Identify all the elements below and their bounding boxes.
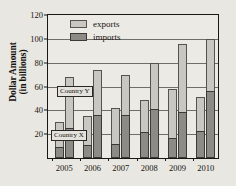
bar-segment-exports xyxy=(140,100,149,132)
bar-2009-country-x xyxy=(168,89,177,158)
y-tick-label: 120 xyxy=(30,10,43,20)
y-tick-label: 80 xyxy=(35,58,44,68)
x-tick-mark xyxy=(165,158,166,161)
bar-segment-exports xyxy=(196,97,205,130)
x-tick-label: 2007 xyxy=(112,163,129,173)
bar-2010-country-y xyxy=(206,39,215,158)
callout-country-y: Country Y xyxy=(57,86,93,97)
plot-area: 20406080100120 200520062007200820092010 … xyxy=(47,14,219,159)
legend-label-imports: imports xyxy=(93,32,121,42)
bar-segment-imports xyxy=(83,145,92,158)
legend-item-exports: exports xyxy=(70,19,121,29)
bar-segment-exports xyxy=(111,108,120,144)
bar-2008-country-x xyxy=(140,100,149,158)
bar-segment-imports xyxy=(55,147,64,158)
x-tick-mark xyxy=(80,158,81,161)
bar-2009-country-y xyxy=(178,44,187,158)
x-tick-mark xyxy=(137,158,138,161)
legend: exports imports xyxy=(70,19,121,42)
bar-segment-imports xyxy=(178,112,187,158)
x-tick-mark xyxy=(108,158,109,161)
bar-segment-imports xyxy=(140,132,149,158)
bar-2007-country-y xyxy=(121,75,130,158)
x-tick-label: 2009 xyxy=(169,163,186,173)
legend-swatch-exports-icon xyxy=(70,20,87,28)
bar-segment-imports xyxy=(206,91,215,158)
callout-country-x: Country X xyxy=(51,130,87,141)
bar-segment-imports xyxy=(93,115,102,158)
bar-2008-country-y xyxy=(150,63,159,158)
bar-segment-imports xyxy=(168,138,177,158)
bar-segment-imports xyxy=(196,131,205,158)
x-tick-label: 2006 xyxy=(84,163,101,173)
x-tick-label: 2010 xyxy=(197,163,214,173)
bar-segment-exports xyxy=(65,77,74,128)
bar-2010-country-x xyxy=(196,97,205,158)
y-axis-title: Dollar Amount (in billions) xyxy=(4,12,34,132)
legend-label-exports: exports xyxy=(93,19,120,29)
y-tick-label: 20 xyxy=(35,129,44,139)
y-tick-label: 100 xyxy=(30,34,43,44)
x-tick-mark xyxy=(193,158,194,161)
y-tick-label: 40 xyxy=(35,105,44,115)
bar-segment-exports xyxy=(206,39,215,91)
x-tick-label: 2008 xyxy=(141,163,158,173)
bar-segment-exports xyxy=(178,44,187,112)
bar-segment-imports xyxy=(111,144,120,158)
bar-segment-imports xyxy=(121,115,130,158)
legend-swatch-imports-icon xyxy=(70,33,87,41)
bar-2007-country-x xyxy=(111,108,120,158)
bar-segment-exports xyxy=(150,63,159,109)
bar-segment-imports xyxy=(150,109,159,158)
bar-chart-figure: Dollar Amount (in billions) 204060801001… xyxy=(0,0,236,186)
bar-segment-exports xyxy=(168,89,177,138)
bar-segment-exports xyxy=(121,75,130,116)
x-tick-mark xyxy=(52,158,53,161)
y-tick-label: 60 xyxy=(35,82,44,92)
bar-2006-country-y xyxy=(93,70,102,158)
y-axis-title-line2: (in billions) xyxy=(19,50,29,95)
legend-item-imports: imports xyxy=(70,32,121,42)
bar-segment-exports xyxy=(93,70,102,115)
x-tick-label: 2005 xyxy=(56,163,73,173)
